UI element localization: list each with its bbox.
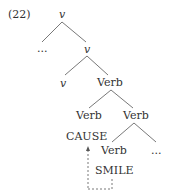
node-root-v: v [59, 9, 65, 21]
node-left-dots: ... [37, 43, 48, 55]
node-verb-low: Verb [101, 145, 127, 157]
tree-lines [0, 0, 171, 194]
node-smile: SMILE [95, 165, 133, 177]
node-verb-right: Verb [123, 110, 149, 122]
node-verb: Verb [97, 77, 123, 89]
example-number: (22) [8, 9, 31, 21]
node-cause: CAUSE [66, 131, 107, 143]
node-v-bar: v [84, 44, 90, 56]
node-verb-left: Verb [76, 110, 102, 122]
node-right-dots: ... [151, 145, 162, 157]
node-v-head: v [60, 78, 66, 90]
